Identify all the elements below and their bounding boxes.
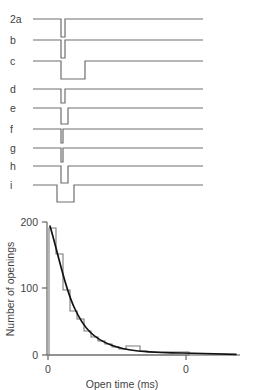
axes-group <box>42 222 240 360</box>
trace-label-c: c <box>10 55 15 67</box>
y-tick-label-200: 200 <box>20 216 38 228</box>
x-axis-title: Open time (ms) <box>86 378 158 390</box>
trace-label-g: g <box>10 142 16 154</box>
y-tick-label-0: 0 <box>32 349 38 361</box>
y-tick-label-100: 100 <box>20 282 38 294</box>
traces-svg: 2a b c d e f g h i <box>0 0 257 212</box>
trace-path-2a <box>33 19 203 37</box>
x-tick-label-0-right: 0 <box>183 363 189 375</box>
trace-labels-group: 2a b c d e f g h i <box>10 13 22 191</box>
trace-label-h: h <box>10 160 16 172</box>
x-tick-label-0-left: 0 <box>45 363 51 375</box>
histogram-bars-group <box>49 228 189 355</box>
trace-path-c <box>33 61 203 79</box>
trace-path-g <box>33 148 203 162</box>
trace-label-e: e <box>10 102 16 114</box>
trace-label-i: i <box>10 179 12 191</box>
trace-path-e <box>33 108 203 124</box>
trace-label-b: b <box>10 34 16 46</box>
figure-root: 2a b c d e f g h i <box>0 0 257 390</box>
tick-labels-group: 200 100 0 0 0 <box>20 216 189 375</box>
histogram-svg: 200 100 0 0 0 Open time (ms) Number of o… <box>0 212 257 390</box>
trace-label-d: d <box>10 83 16 95</box>
trace-label-f: f <box>10 123 13 135</box>
fit-curve-group <box>50 226 236 354</box>
histogram-step-outline <box>49 228 189 355</box>
trace-path-i <box>33 185 203 202</box>
trace-path-b <box>33 40 203 58</box>
exponential-fit-curve <box>50 226 236 354</box>
single-channel-traces-panel: 2a b c d e f g h i <box>0 0 257 212</box>
open-time-histogram-panel: 200 100 0 0 0 Open time (ms) Number of o… <box>0 212 257 390</box>
trace-path-h <box>33 166 203 183</box>
trace-label-2a: 2a <box>10 13 22 25</box>
trace-path-f <box>33 129 203 143</box>
y-axis-title: Number of openings <box>4 242 16 337</box>
trace-paths-group <box>33 19 203 202</box>
trace-path-d <box>33 89 203 103</box>
